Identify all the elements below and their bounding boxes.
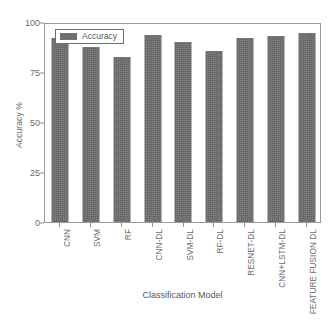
bar-slot-8 (291, 24, 322, 222)
x-tick-label-cnn: CNN (63, 229, 72, 247)
y-tick-label-0: 0 (14, 218, 40, 228)
bar-rf[interactable] (113, 57, 130, 222)
bar-slot-3 (137, 24, 168, 222)
bar-slot-4 (168, 24, 199, 222)
x-tick-label-svm: SVM (93, 229, 102, 247)
y-axis-ticks: 0 25 50 75 100 (14, 23, 40, 223)
x-tick-label-cnn-dl: CNN-DL (155, 229, 164, 261)
bar-slot-2 (107, 24, 138, 222)
bars-layer (45, 24, 320, 222)
bar-chart-figure: Accuracy % 0 25 50 75 100 Accuracy (0, 0, 336, 336)
x-tick-mark-3 (152, 223, 153, 227)
y-tick-label-100: 100 (14, 18, 40, 28)
legend: Accuracy (55, 29, 124, 44)
bar-resnet-dl[interactable] (237, 38, 254, 222)
x-tick-mark-0 (59, 223, 60, 227)
x-tick-mark-1 (90, 223, 91, 227)
x-tick-mark-5 (213, 223, 214, 227)
bar-slot-1 (76, 24, 107, 222)
x-tick-mark-8 (306, 223, 307, 227)
x-tick-label-svm-dl: SVM-DL (186, 229, 195, 261)
bar-slot-7 (260, 24, 291, 222)
x-tick-mark-7 (275, 223, 276, 227)
x-tick-mark-4 (183, 223, 184, 227)
bar-cnn-lstm-dl[interactable] (267, 36, 284, 222)
bar-feature-fusion-dl[interactable] (298, 33, 315, 222)
y-tick-label-75: 75 (14, 68, 40, 78)
legend-label-accuracy: Accuracy (82, 32, 117, 41)
bar-svm-dl[interactable] (175, 42, 192, 222)
bar-slot-6 (230, 24, 261, 222)
plot-area: Accuracy (44, 23, 321, 223)
bar-cnn[interactable] (52, 38, 69, 222)
y-tick-label-25: 25 (14, 168, 40, 178)
x-tick-label-cnn-lstm-dl: CNN+LSTM-DL (278, 229, 287, 288)
bar-slot-5 (199, 24, 230, 222)
bar-svm[interactable] (83, 47, 100, 222)
caption-strip (0, 327, 336, 336)
y-tick-label-50: 50 (14, 118, 40, 128)
x-tick-label-feature-fusion-dl: FEATURE FUSION DL (309, 229, 318, 314)
x-tick-mark-6 (244, 223, 245, 227)
bar-slot-0 (45, 24, 76, 222)
bar-rf-dl[interactable] (206, 51, 223, 222)
x-tick-mark-2 (121, 223, 122, 227)
x-tick-label-rf: RF (124, 229, 133, 240)
legend-swatch-accuracy (60, 33, 77, 40)
x-tick-label-rf-dl: RF-DL (216, 229, 225, 254)
x-tick-label-resnet-dl: RESNET-DL (247, 229, 256, 276)
x-axis-title: Classification Model (44, 290, 321, 300)
bar-cnn-dl[interactable] (144, 35, 161, 222)
